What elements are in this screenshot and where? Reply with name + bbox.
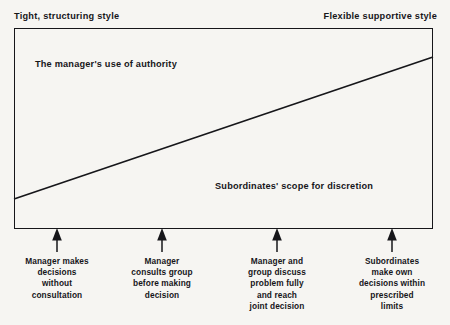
region-label-subordinate-discretion: Subordinates' scope for discretion xyxy=(215,180,373,192)
region-label-manager-authority: The manager's use of authority xyxy=(35,58,177,70)
stage-caption-2: Manager consults group before making dec… xyxy=(100,256,224,301)
stage-caption-4: Subordinates make own decisions within p… xyxy=(330,256,450,312)
pole-label-left: Tight, structuring style xyxy=(14,10,119,22)
stage-caption-3: Manager and group discuss problem fully … xyxy=(215,256,339,312)
continuum-diagram: Tight, structuring style Flexible suppor… xyxy=(0,0,450,325)
pole-label-right: Flexible supportive style xyxy=(324,10,437,22)
